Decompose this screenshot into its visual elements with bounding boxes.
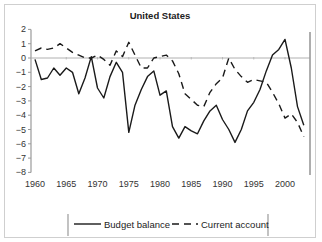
y-tick-label: −3 <box>16 96 26 106</box>
series-group <box>35 39 304 142</box>
current-account-line <box>35 42 304 136</box>
x-tick-label: 1990 <box>212 179 232 189</box>
y-tick-label: −4 <box>16 110 26 120</box>
y-axis: 210−1−2−3−4−5−6−7−8 <box>16 24 31 177</box>
y-tick-label: 2 <box>21 24 26 34</box>
x-tick-label: 1985 <box>181 179 201 189</box>
legend-label-budget-balance: Budget balance <box>104 219 170 230</box>
budget-balance-line <box>35 39 304 142</box>
y-tick-label: −7 <box>16 153 26 163</box>
y-tick-label: −5 <box>16 125 26 135</box>
legend: Budget balance Current account <box>68 214 269 236</box>
x-tick-label: 1980 <box>150 179 170 189</box>
line-chart: United States 210−1−2−3−4−5−6−7−8 196019… <box>0 0 322 242</box>
y-tick-label: −1 <box>16 67 26 77</box>
x-axis: 196019651970197519801985199019952000 <box>25 57 295 189</box>
legend-label-current-account: Current account <box>201 219 269 230</box>
x-tick-label: 1965 <box>56 179 76 189</box>
y-tick-label: 0 <box>21 53 26 63</box>
y-tick-label: −8 <box>16 167 26 177</box>
y-tick-label: −2 <box>16 82 26 92</box>
y-tick-label: 1 <box>21 39 26 49</box>
x-tick-label: 1975 <box>119 179 139 189</box>
x-tick-label: 2000 <box>275 179 295 189</box>
x-tick-label: 1960 <box>25 179 45 189</box>
chart-title: United States <box>130 10 191 21</box>
x-tick-label: 1970 <box>87 179 107 189</box>
x-tick-label: 1995 <box>244 179 264 189</box>
y-tick-label: −6 <box>16 139 26 149</box>
